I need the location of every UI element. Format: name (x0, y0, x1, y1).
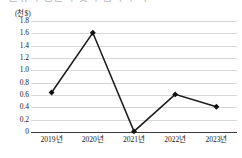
y-axis-tick-label: 1.0 (3, 66, 29, 74)
line-chart: 00.20.40.60.81.01.21.41.61.8 2019년2020년2… (0, 0, 242, 158)
series-polyline (52, 33, 217, 132)
y-axis-tick-label: 1.8 (3, 17, 29, 25)
x-axis-tick-label: 2022년 (164, 135, 186, 144)
y-axis-tick-label: 0.2 (3, 116, 29, 124)
y-axis-tick-label: 1.4 (3, 42, 29, 50)
y-axis-tick-label: 0.6 (3, 91, 29, 99)
x-axis-tick-label: 2019년 (41, 135, 63, 144)
y-axis-tick-label: 0.4 (3, 103, 29, 111)
x-axis-tick-label: 2020년 (82, 135, 104, 144)
y-axis-tick-label: 0.8 (3, 79, 29, 87)
data-point-marker (213, 104, 219, 110)
x-axis-tick-label: 2021년 (123, 135, 145, 144)
series-line (31, 21, 237, 132)
x-axis-tick-labels: 2019년2020년2021년2022년2023년 (31, 135, 237, 149)
x-axis-tick-label: 2023년 (205, 135, 227, 144)
plot-area (31, 21, 237, 132)
y-axis-tick-label: 0 (3, 128, 29, 136)
y-axis-tick-label: 1.2 (3, 54, 29, 62)
y-axis-tick-label: 1.6 (3, 29, 29, 37)
y-axis-tick-labels: 00.20.40.60.81.01.21.41.61.8 (0, 21, 29, 132)
